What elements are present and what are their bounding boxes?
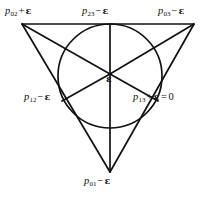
cevian-to-top-left-vertex — [22, 24, 110, 74]
label-p02-epsilon: ε — [26, 5, 32, 16]
radius-to-left-lower-tangent — [62, 74, 110, 101]
label-p13-equals: = — [159, 91, 168, 102]
label-p03-operator: − — [171, 5, 179, 16]
cevian-to-top-right-vertex — [110, 24, 194, 74]
label-p23-epsilon: ε — [103, 5, 109, 16]
label-p12-operator: − — [37, 91, 45, 102]
label-p13-plus-epsilon-equals-zero: p13+ε=0 — [133, 92, 174, 104]
label-p02-plus-epsilon: p02+ε — [5, 6, 31, 18]
label-p23-subscript: 23 — [87, 10, 94, 18]
label-p02-subscript: 02 — [10, 10, 17, 18]
label-p12-minus-epsilon: p12−ε — [24, 92, 50, 104]
label-p13-value: 0 — [169, 91, 174, 102]
label-p03-subscript: 03 — [163, 10, 170, 18]
label-p13-operator: + — [146, 91, 154, 102]
label-p23-operator: − — [95, 5, 103, 16]
label-p03-epsilon: ε — [179, 5, 185, 16]
geometry-figure: p02+ε p23−ε p03−ε p12−ε p13+ε=0 p01−ε ε — [0, 0, 217, 198]
center-epsilon-symbol: ε — [106, 73, 112, 84]
label-p12-epsilon: ε — [45, 91, 51, 102]
label-epsilon-center: ε — [106, 74, 112, 85]
label-p01-minus-epsilon: p01−ε — [84, 176, 110, 188]
label-p23-minus-epsilon: p23−ε — [82, 6, 108, 18]
label-p12-subscript: 12 — [29, 96, 36, 104]
label-p03-minus-epsilon: p03−ε — [158, 6, 184, 18]
label-p01-subscript: 01 — [89, 180, 96, 188]
label-p13-subscript: 13 — [138, 96, 145, 104]
label-p02-operator: + — [18, 5, 26, 16]
label-p01-operator: − — [97, 175, 105, 186]
label-p01-epsilon: ε — [105, 175, 111, 186]
